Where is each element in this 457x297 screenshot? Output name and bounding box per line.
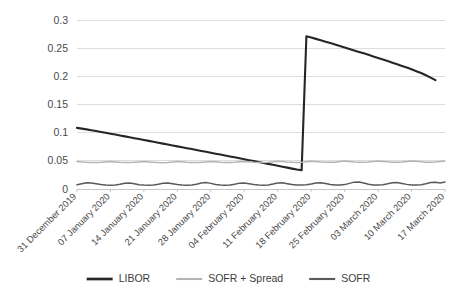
y-axis-tick-label: 0.15 <box>48 98 69 110</box>
legend-label: LIBOR <box>119 272 151 284</box>
chart-container: 00.050.10.150.20.250.3 31 December 20190… <box>0 0 457 297</box>
x-axis-tick-label: 31 December 2019 <box>15 191 78 254</box>
y-axis-tick-labels: 00.050.10.150.20.250.3 <box>48 14 69 195</box>
y-axis-tick-label: 0.05 <box>48 154 69 166</box>
x-axis-tick-labels: 31 December 201907 January 202014 Januar… <box>15 189 446 254</box>
y-axis-tick-label: 0 <box>62 183 68 195</box>
chart-legend: LIBORSOFR + SpreadSOFR <box>87 272 371 284</box>
line-chart: 00.050.10.150.20.250.3 31 December 20190… <box>0 0 457 297</box>
y-axis-tick-label: 0.1 <box>53 126 68 138</box>
data-series-group <box>77 36 445 185</box>
y-axis-tick-label: 0.2 <box>53 70 68 82</box>
y-axis-tick-label: 0.25 <box>48 42 69 54</box>
series-line-sofr <box>77 182 445 185</box>
legend-label: SOFR + Spread <box>208 272 283 284</box>
gridlines <box>77 20 445 189</box>
legend-label: SOFR <box>341 272 371 284</box>
y-axis-tick-label: 0.3 <box>53 14 68 26</box>
series-line-libor <box>77 36 435 170</box>
